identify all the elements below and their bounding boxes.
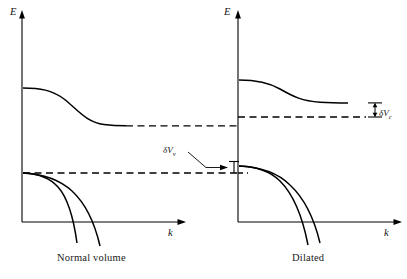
figure-canvas: [0, 0, 407, 279]
delta-vv-leader-line: [188, 152, 206, 168]
panel-normal-volume: [19, 10, 239, 246]
caption-dilated: Dilated: [292, 252, 324, 263]
left-valence-band-curve-2: [23, 173, 100, 246]
delta-v-conduction-subscript: c: [389, 113, 392, 120]
right-y-axis-arrowhead: [235, 10, 241, 19]
band-structure-figure: E k E k δVv δVc Normal volume Dilated: [0, 0, 407, 279]
delta-vc-arrow-head-up: [373, 103, 378, 107]
delta-v-valence-subscript: v: [173, 150, 176, 157]
right-y-axis-label: E: [224, 6, 230, 17]
right-conduction-band-curve: [239, 80, 348, 103]
right-valence-band-curve-1: [239, 166, 308, 245]
left-x-axis-label: k: [168, 227, 173, 238]
left-y-axis-arrowhead: [19, 10, 25, 19]
delta-v-conduction-symbol: δV: [379, 108, 389, 118]
left-x-axis-arrowhead: [178, 219, 187, 225]
delta-vc-arrow-head-down: [373, 113, 378, 117]
caption-normal-volume: Normal volume: [57, 252, 126, 263]
right-x-axis-label: k: [384, 227, 389, 238]
delta-v-conduction-label: δVc: [379, 108, 392, 120]
left-conduction-band-curve: [23, 88, 126, 126]
right-valence-band-curve-2: [239, 166, 320, 243]
delta-v-valence-label: δVv: [163, 145, 176, 157]
right-x-axis-arrowhead: [394, 219, 403, 225]
left-y-axis-label: E: [10, 6, 16, 17]
delta-v-valence-symbol: δV: [163, 145, 173, 155]
panel-dilated: [235, 10, 402, 245]
left-valence-band-curve-1: [23, 173, 77, 243]
delta-vv-leader-arrowhead: [220, 165, 228, 170]
